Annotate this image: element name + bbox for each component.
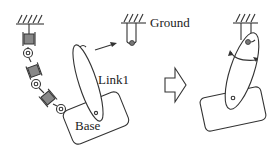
prismatic-joint-3 (41, 91, 55, 105)
prismatic-joint-1 (24, 34, 34, 44)
revolute-joint-1 (24, 49, 33, 58)
link1-label: Link1 (98, 72, 129, 87)
serial-chain (16, 15, 66, 114)
transition-arrow (165, 68, 186, 102)
base-label: Base (75, 118, 101, 133)
assembled-mechanism (199, 14, 267, 132)
ground-label: Ground (150, 15, 190, 30)
mechanism-diagram: Link1 Base Ground (0, 0, 278, 153)
ground-hatch-left (16, 15, 44, 24)
pointer-arrow (95, 42, 117, 50)
revolute-joint-2 (32, 80, 41, 89)
ground-anchor (121, 14, 146, 46)
